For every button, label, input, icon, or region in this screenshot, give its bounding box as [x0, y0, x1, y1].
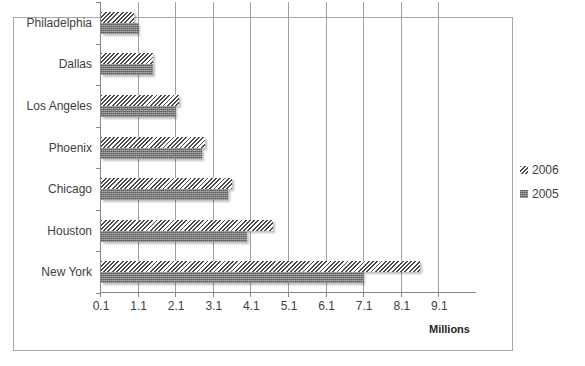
y-tick: [96, 168, 101, 169]
bar-2006: [101, 261, 420, 272]
bar-2006: [101, 220, 273, 231]
y-tick: [96, 85, 101, 86]
bar-2005: [101, 64, 153, 75]
bar-2006: [101, 95, 179, 106]
bar-2006: [101, 137, 205, 148]
y-tick: [96, 127, 101, 128]
legend-item-2006: 2006: [520, 163, 559, 177]
gridline: [363, 2, 364, 292]
x-tick-label: 2.1: [168, 299, 185, 313]
gridline: [213, 2, 214, 292]
x-axis-line: [100, 292, 476, 293]
legend-swatch-2006-icon: [520, 166, 528, 174]
bar-2005: [101, 106, 175, 117]
category-label: Houston: [0, 224, 92, 238]
y-tick: [96, 44, 101, 45]
gridline: [326, 2, 327, 292]
x-tick-label: 0.1: [93, 299, 110, 313]
x-tick-label: 9.1: [431, 299, 448, 313]
category-label: Chicago: [0, 182, 92, 196]
gridline: [250, 2, 251, 292]
x-tick-label: 3.1: [205, 299, 222, 313]
category-label: Dallas: [0, 57, 92, 71]
gridline: [401, 2, 402, 292]
bar-2005: [101, 272, 363, 283]
legend-item-2005: 2005: [520, 187, 559, 201]
x-tick-label: 1.1: [130, 299, 147, 313]
category-label: New York: [0, 265, 92, 279]
x-tick-label: 6.1: [318, 299, 335, 313]
y-tick: [96, 293, 101, 294]
x-tick-label: 5.1: [281, 299, 298, 313]
bar-2005: [101, 148, 202, 159]
x-tick-label: 8.1: [393, 299, 410, 313]
y-tick: [96, 251, 101, 252]
x-tick-label: 7.1: [356, 299, 373, 313]
gridline: [438, 2, 439, 292]
bar-2006: [101, 12, 134, 23]
bar-2006: [101, 53, 153, 64]
y-tick: [96, 210, 101, 211]
legend-label-2005: 2005: [532, 187, 559, 201]
category-label: Los Angeles: [0, 99, 92, 113]
x-tick-label: 4.1: [243, 299, 260, 313]
x-axis-title: Millions: [429, 323, 470, 335]
y-tick: [96, 2, 101, 3]
legend-swatch-2005-icon: [520, 190, 528, 198]
bar-2005: [101, 231, 247, 242]
bar-2005: [101, 189, 228, 200]
bar-2005: [101, 23, 138, 34]
category-label: Phoenix: [0, 141, 92, 155]
legend-label-2006: 2006: [532, 163, 559, 177]
bar-2006: [101, 178, 232, 189]
gridline: [288, 2, 289, 292]
category-label: Philadelphia: [0, 16, 92, 30]
